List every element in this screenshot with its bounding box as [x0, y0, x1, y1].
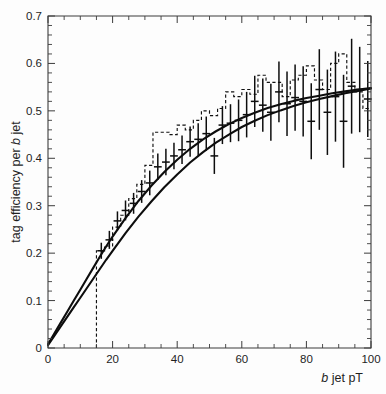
x-tick-label: 20	[106, 353, 119, 365]
chart-figure: 02040608010000.10.20.30.40.50.60.7b jet …	[0, 0, 386, 394]
x-tick-label: 40	[171, 353, 184, 365]
x-tick-label: 60	[235, 353, 248, 365]
y-tick-label: 0.1	[26, 295, 42, 307]
x-tick-label: 100	[361, 353, 380, 365]
x-tick-label: 80	[300, 353, 313, 365]
y-tick-label: 0.6	[26, 57, 42, 69]
y-axis-title: tag efficiency per b jet	[9, 121, 23, 243]
x-axis-title: b jet pT	[321, 371, 363, 385]
x-tick-label: 0	[45, 353, 51, 365]
tag-efficiency-plot: 02040608010000.10.20.30.40.50.60.7b jet …	[0, 0, 386, 394]
y-tick-label: 0.4	[26, 152, 43, 164]
y-tick-label: 0.3	[26, 200, 42, 212]
plot-background	[0, 0, 386, 394]
y-tick-label: 0.7	[26, 10, 42, 22]
y-tick-label: 0	[36, 342, 42, 354]
y-tick-label: 0.2	[26, 247, 42, 259]
y-tick-label: 0.5	[26, 105, 42, 117]
